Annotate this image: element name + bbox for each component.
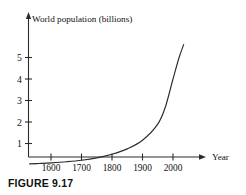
y-axis-arrow-icon [26,12,31,19]
x-tick-label-1600: 1600 [42,163,61,173]
y-tick-label-5: 5 [17,52,22,63]
world-population-chart: World population (billions) 1 2 3 4 5 16… [0,0,246,195]
x-axis-arrow-icon [199,154,206,159]
figure-caption: FIGURE 9.17 [8,177,73,189]
y-tick-label-3: 3 [17,95,22,106]
population-curve [30,45,184,164]
x-tick-label-2000: 2000 [164,163,183,173]
y-tick-label-2: 2 [17,117,22,128]
x-tick-label-1700: 1700 [72,163,91,173]
chart-title: World population (billions) [32,14,132,24]
y-tick-label-1: 1 [17,138,22,149]
x-tick-label-1800: 1800 [103,163,122,173]
figure-container: World population (billions) 1 2 3 4 5 16… [0,0,246,195]
y-tick-label-4: 4 [17,74,22,85]
x-tick-label-1900: 1900 [133,163,152,173]
x-axis-label: Year [212,152,229,162]
